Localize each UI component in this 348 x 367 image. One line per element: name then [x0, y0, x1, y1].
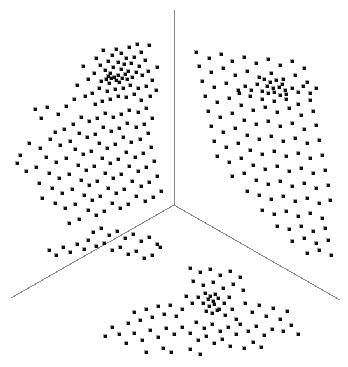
data-point	[133, 332, 136, 335]
data-point	[212, 300, 215, 303]
data-point	[315, 87, 318, 90]
data-point	[142, 152, 145, 155]
data-point	[64, 207, 67, 210]
data-point	[237, 142, 240, 145]
data-point	[78, 132, 81, 135]
data-point	[302, 85, 305, 88]
data-point	[82, 153, 85, 156]
data-point	[135, 195, 138, 198]
data-point	[258, 304, 261, 307]
data-point	[128, 165, 131, 168]
data-point	[238, 92, 241, 95]
data-point	[135, 250, 138, 253]
data-point	[113, 76, 116, 79]
data-point	[273, 100, 276, 103]
data-point	[297, 333, 300, 336]
data-point	[221, 338, 224, 341]
data-point	[156, 66, 159, 69]
data-point	[94, 103, 97, 106]
data-point	[91, 92, 94, 95]
data-point	[48, 172, 51, 175]
data-point	[63, 128, 66, 131]
data-point	[276, 165, 279, 168]
data-point	[229, 345, 232, 348]
data-point	[309, 92, 312, 95]
data-point	[235, 318, 238, 321]
data-point	[249, 149, 252, 152]
data-point	[57, 113, 60, 116]
data-point	[96, 180, 99, 183]
data-point	[128, 46, 131, 49]
data-point	[321, 217, 324, 220]
data-point	[132, 233, 135, 236]
data-point	[309, 212, 312, 215]
data-point	[74, 203, 77, 206]
data-point	[204, 95, 207, 98]
data-point	[49, 138, 52, 141]
data-point	[189, 348, 192, 351]
data-point	[153, 160, 156, 163]
data-point	[55, 161, 58, 164]
data-point	[74, 148, 77, 151]
data-point	[228, 296, 231, 299]
data-point	[261, 209, 264, 212]
data-point	[267, 92, 270, 95]
data-point	[124, 73, 127, 76]
data-point	[273, 150, 276, 153]
data-point	[137, 170, 140, 173]
data-point	[143, 123, 146, 126]
data-point	[130, 141, 133, 144]
data-point	[95, 245, 98, 248]
data-point	[219, 116, 222, 119]
data-point	[195, 51, 198, 54]
data-point	[235, 333, 238, 336]
data-point	[104, 335, 107, 338]
data-point	[303, 237, 306, 240]
data-point	[130, 62, 133, 65]
data-point	[106, 90, 109, 93]
data-point	[234, 74, 237, 77]
data-point	[90, 150, 93, 153]
data-point	[255, 325, 258, 328]
data-point	[54, 202, 57, 205]
data-point	[285, 155, 288, 158]
data-point	[133, 311, 136, 314]
data-point	[109, 162, 112, 165]
data-point	[115, 79, 118, 82]
data-point	[219, 274, 222, 277]
data-point	[229, 270, 232, 273]
data-point	[101, 100, 104, 103]
data-point	[118, 333, 121, 336]
data-point	[127, 322, 130, 325]
data-point	[243, 119, 246, 122]
data-point	[255, 62, 258, 65]
data-point	[40, 117, 43, 120]
data-point	[108, 234, 111, 237]
data-point	[148, 181, 151, 184]
data-point	[114, 88, 117, 91]
data-point	[303, 128, 306, 131]
data-point	[104, 172, 107, 175]
data-point	[160, 190, 163, 193]
data-point	[252, 341, 255, 344]
data-point	[288, 107, 291, 110]
data-point	[205, 335, 208, 338]
data-point	[264, 168, 267, 171]
data-point	[150, 146, 153, 149]
data-point	[315, 187, 318, 190]
data-point	[216, 155, 219, 158]
data-point	[278, 86, 281, 89]
data-point	[220, 53, 223, 56]
data-point	[104, 112, 107, 115]
data-point	[219, 330, 222, 333]
data-point	[145, 166, 148, 169]
data-point	[148, 236, 151, 239]
data-point	[273, 213, 276, 216]
data-point	[61, 192, 64, 195]
data-point	[117, 95, 120, 98]
data-point	[131, 180, 134, 183]
data-point	[115, 192, 118, 195]
data-point	[249, 95, 252, 98]
data-point	[270, 198, 273, 201]
data-point	[199, 271, 202, 274]
